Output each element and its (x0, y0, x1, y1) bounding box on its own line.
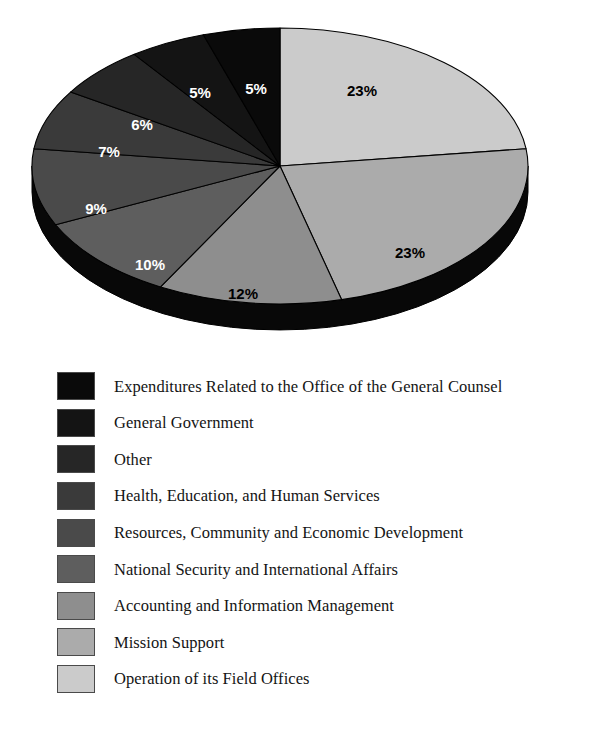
pie-slice-percent-label: 7% (98, 143, 120, 160)
pie-slice-percent-label: 12% (228, 285, 258, 302)
pie-slice-percent-label: 5% (245, 80, 267, 97)
pie-slice-percent-label: 23% (395, 244, 425, 261)
legend-item[interactable]: Other (57, 441, 602, 478)
legend-item-label: Accounting and Information Management (114, 597, 394, 614)
legend-item-label: Expenditures Related to the Office of th… (114, 378, 502, 395)
pie-chart-area: 23%23%12%10%9%7%6%5%5% (0, 14, 607, 334)
legend-item-label: National Security and International Affa… (114, 561, 398, 578)
legend-color-swatch (57, 592, 95, 620)
pie-slice-percent-label: 10% (135, 256, 165, 273)
pie-slice[interactable] (280, 28, 526, 166)
legend-item[interactable]: National Security and International Affa… (57, 551, 602, 588)
legend-item-label: Operation of its Field Offices (114, 670, 310, 687)
legend-color-swatch (57, 628, 95, 656)
pie-slice-percent-label: 9% (85, 200, 107, 217)
pie-chart-figure: ·· 23%23%12%10%9%7%6%5%5% Expenditures R… (0, 0, 607, 731)
legend-item[interactable]: Operation of its Field Offices (57, 661, 602, 698)
legend-color-swatch (57, 555, 95, 583)
cropped-title-remnant: ·· (0, 0, 607, 6)
pie-slice-group (32, 28, 528, 304)
legend-color-swatch (57, 409, 95, 437)
legend-item[interactable]: Mission Support (57, 624, 602, 661)
legend-item-label: Other (114, 451, 152, 468)
legend-color-swatch (57, 445, 95, 473)
legend-color-swatch (57, 482, 95, 510)
legend-item[interactable]: Expenditures Related to the Office of th… (57, 368, 602, 405)
chart-legend: Expenditures Related to the Office of th… (57, 368, 602, 697)
legend-item[interactable]: Health, Education, and Human Services (57, 478, 602, 515)
legend-item-label: General Government (114, 414, 254, 431)
legend-item-label: Resources, Community and Economic Develo… (114, 524, 463, 541)
legend-item[interactable]: Accounting and Information Management (57, 588, 602, 625)
legend-item[interactable]: General Government (57, 405, 602, 442)
legend-item-label: Health, Education, and Human Services (114, 487, 380, 504)
pie-slice-percent-label: 23% (347, 82, 377, 99)
pie-slice-percent-label: 6% (131, 116, 153, 133)
legend-color-swatch (57, 372, 95, 400)
legend-color-swatch (57, 519, 95, 547)
legend-item-label: Mission Support (114, 634, 224, 651)
legend-color-swatch (57, 665, 95, 693)
pie-chart-svg: 23%23%12%10%9%7%6%5%5% (0, 14, 607, 334)
legend-item[interactable]: Resources, Community and Economic Develo… (57, 514, 602, 551)
pie-slice-percent-label: 5% (189, 84, 211, 101)
